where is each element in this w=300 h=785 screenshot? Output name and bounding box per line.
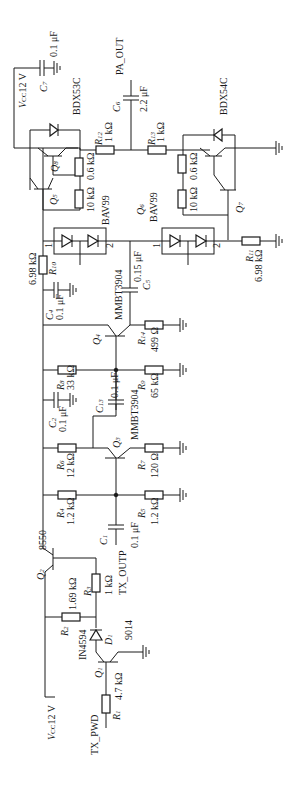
vcc-bottom-terminal xyxy=(45,660,55,697)
r5-ref: R5 xyxy=(136,508,147,519)
tx-pwd-label: TX_PWD xyxy=(89,714,100,755)
rq7a-value: 0.6 kΩ xyxy=(188,153,199,180)
ground-icon xyxy=(180,318,186,332)
diode-icon xyxy=(50,124,58,136)
bav99-left-pin2: 2 xyxy=(104,243,115,248)
resistor-r11 xyxy=(242,237,260,245)
r5-value: 1.2 kΩ xyxy=(149,498,160,525)
r11-value: 6.98 kΩ xyxy=(253,250,264,282)
resistor-r1 xyxy=(102,695,110,713)
tx-outp-label: TX_OUTP xyxy=(117,550,128,595)
d1-ref: D1 xyxy=(103,634,114,646)
r2-ref: R2 xyxy=(59,626,70,637)
ground-icon xyxy=(180,488,186,502)
q3-ref: Q3 xyxy=(111,437,122,448)
q6-ref: Q6 xyxy=(135,204,146,215)
resistor-r13 xyxy=(148,146,166,154)
q3-part: MMBT3904 xyxy=(129,389,140,440)
r10-ref: R10 xyxy=(47,261,58,276)
diode-icon xyxy=(170,235,180,247)
bdx53c-label: BDX53C xyxy=(71,77,82,115)
r1-value: 4.7 kΩ xyxy=(113,673,124,700)
q1-ref: Q1 xyxy=(93,667,104,678)
r10-value: 6.98 kΩ xyxy=(27,253,38,285)
r2-value: 1.69 kΩ xyxy=(67,578,78,610)
r3-value: 1 kΩ xyxy=(103,575,114,595)
q7-darlington xyxy=(178,129,282,240)
r7-value: 120 Ω xyxy=(149,453,160,478)
q2-part: 8550 xyxy=(37,530,48,550)
ground-icon xyxy=(54,61,60,75)
resistor-q5-bias-a xyxy=(75,158,83,176)
d1-part: IN4594 xyxy=(77,629,88,660)
q8-ref: Q8 xyxy=(49,161,60,172)
rq5a-value: 0.6 kΩ xyxy=(85,153,96,180)
c1-value: 0.1 μF xyxy=(129,522,140,548)
resistor-r12 xyxy=(96,146,114,154)
resistor-r9 xyxy=(145,366,163,374)
ground-icon xyxy=(70,393,76,407)
c5-value: 0.15 μF xyxy=(132,251,143,282)
bav99-left-pin1: 1 xyxy=(43,243,54,248)
resistor-r3 xyxy=(92,574,100,592)
q2-ref: Q2 xyxy=(35,569,46,580)
bav99-right-label: BAV99 xyxy=(148,192,159,222)
r6-value: 12 kΩ xyxy=(65,453,76,478)
diode-icon xyxy=(88,235,98,247)
r1-ref: R1 xyxy=(111,710,122,721)
q5-ref: Q5 xyxy=(48,194,59,205)
rq7b-value: 10 kΩ xyxy=(188,187,199,212)
ground-icon xyxy=(143,645,149,659)
c13-value: 0.1 μF xyxy=(109,372,120,398)
c6-value: 2.2 μF xyxy=(138,86,149,112)
r7-ref: R7 xyxy=(136,460,147,471)
diode-icon xyxy=(90,630,102,640)
r9-value: 65 kΩ xyxy=(149,373,160,398)
resistor-r10 xyxy=(39,256,47,274)
q7-ref: Q7 xyxy=(234,202,245,213)
q1-part: 9014 xyxy=(123,620,134,640)
resistor-q7-bias-b xyxy=(178,190,186,208)
r14-ref: R14 xyxy=(136,331,147,346)
vcc-bottom-label: VCC12 V xyxy=(46,704,57,740)
resistor-q5-bias-b xyxy=(75,190,83,208)
ground-icon xyxy=(70,283,76,297)
c7-value: 0.1 μF xyxy=(48,31,59,57)
r13-value: 1 kΩ xyxy=(155,122,166,142)
c2 xyxy=(43,392,76,408)
r3-ref: R3 xyxy=(82,586,93,597)
r4-value: 1.2 kΩ xyxy=(65,498,76,525)
q4-ref: Q4 xyxy=(91,334,102,345)
rq5b-value: 10 kΩ xyxy=(85,187,96,212)
vcc-top-label: VCC12 V xyxy=(17,72,28,108)
r8-value: 33 kΩ xyxy=(65,365,76,390)
pa-out-label: PA_OUT xyxy=(114,38,125,75)
c7-ref: C7 xyxy=(38,81,49,92)
c6-ref: C6 xyxy=(111,101,122,112)
diode-icon xyxy=(196,235,206,247)
r12-value: 1 kΩ xyxy=(103,122,114,142)
q4-part: MMBT3904 xyxy=(113,269,124,320)
circuit-schematic: VCC12 V C7 0.1 μF BDX53C Q8 Q5 0.6 kΩ 10… xyxy=(0,0,300,785)
r14-value: 499 Ω xyxy=(149,327,160,352)
ground-icon xyxy=(180,441,186,455)
diode-icon xyxy=(214,129,222,141)
bav99-right-pin2: 2 xyxy=(211,243,222,248)
resistor-r6 xyxy=(58,444,76,452)
resistor-r7 xyxy=(145,444,163,452)
bdx54c-label: BDX54C xyxy=(218,77,229,115)
r9-ref: R9 xyxy=(136,380,147,391)
c4-value: 0.1 μF xyxy=(54,294,65,320)
bav99-left-label: BAV99 xyxy=(100,195,111,225)
ground-icon xyxy=(180,363,186,377)
c2-value: 0.1 μF xyxy=(57,406,68,432)
c1-ref: C1 xyxy=(98,535,109,545)
resistor-r2 xyxy=(62,613,80,621)
diode-icon xyxy=(62,235,72,247)
bav99-right-pin1: 1 xyxy=(151,243,162,248)
ground-icon xyxy=(276,234,282,248)
c13-ref: C13 xyxy=(94,399,105,413)
resistor-q7-bias-a xyxy=(178,155,186,173)
ground-icon xyxy=(276,141,282,155)
